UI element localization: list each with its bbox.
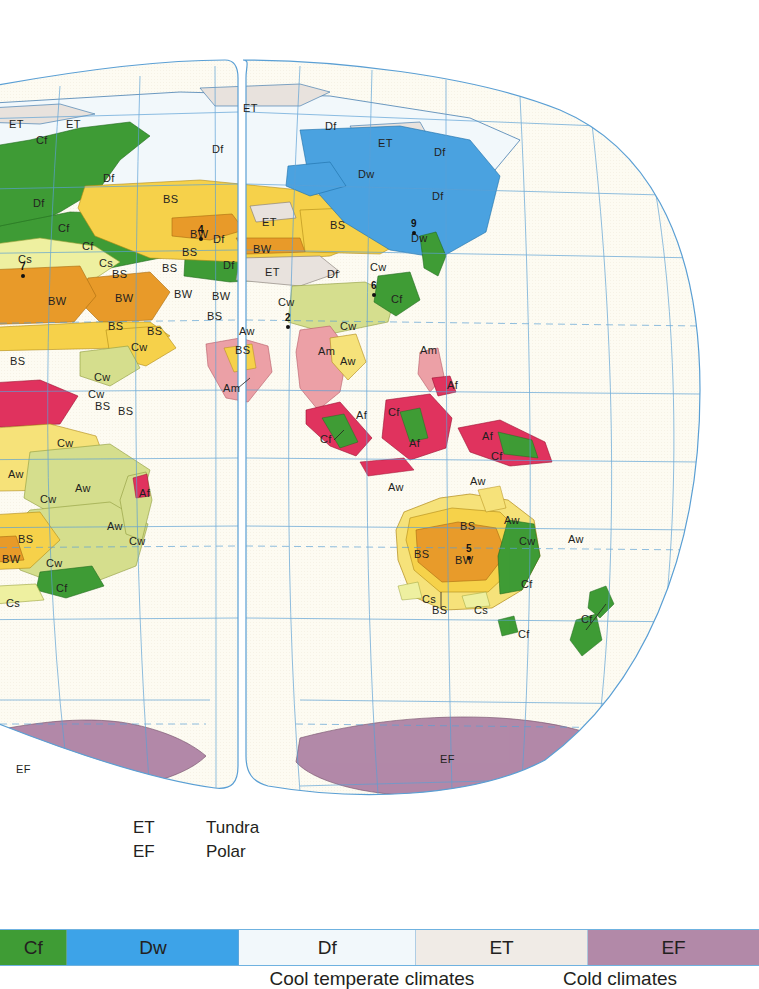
station-marker-7: 7 — [20, 261, 26, 272]
station-dot-2 — [286, 325, 290, 329]
station-dot-9 — [412, 231, 416, 235]
colorbar-segment-df[interactable]: Df — [239, 930, 416, 965]
legend-name-polar: Polar — [206, 842, 246, 862]
world-climate-map: ETETCfETDfETDfDfDfDwDfCfBSBWETBSDwDfCfBS… — [0, 0, 759, 800]
map-graphic — [0, 0, 759, 800]
climate-colorbar: CfDwDfETEF Cool temperate climatesCold c… — [0, 929, 759, 989]
climate-map-page: ETETCfETDfETDfDfDfDwDfCfBSBWETBSDwDfCfBS… — [0, 0, 759, 989]
legend-code-et: ET — [133, 818, 206, 838]
station-marker-5: 5 — [466, 543, 472, 554]
station-marker-4: 4 — [198, 224, 204, 235]
station-dot-5 — [467, 556, 471, 560]
colorbar-segment-cf[interactable]: Cf — [0, 930, 67, 965]
legend-code-ef: EF — [133, 842, 206, 862]
station-marker-2: 2 — [285, 312, 291, 323]
station-dot-6 — [372, 293, 376, 297]
colorbar-segment-et[interactable]: ET — [416, 930, 588, 965]
station-dot-7 — [21, 274, 25, 278]
colorbar-segment-dw[interactable]: Dw — [67, 930, 239, 965]
station-marker-9: 9 — [411, 218, 417, 229]
colorbar-caption: Cool temperate climates — [270, 968, 475, 989]
colorbar-segments: CfDwDfETEF — [0, 929, 759, 966]
map-base — [0, 50, 759, 800]
legend-row: ET Tundra — [133, 818, 433, 842]
colorbar-segment-ef[interactable]: EF — [588, 930, 759, 965]
station-dot-4 — [199, 237, 203, 241]
station-marker-6: 6 — [371, 280, 377, 291]
legend-row: EF Polar — [133, 842, 433, 866]
colorbar-caption: Cold climates — [563, 968, 677, 989]
legend-list: ET Tundra EF Polar — [133, 818, 433, 866]
legend-name-tundra: Tundra — [206, 818, 259, 838]
colorbar-captions: Cool temperate climatesCold climates — [0, 966, 759, 989]
